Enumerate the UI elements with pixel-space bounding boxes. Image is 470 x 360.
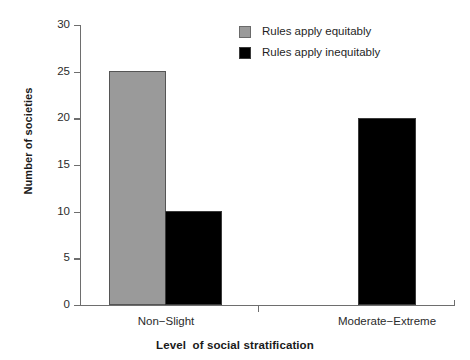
y-axis-tick-label-30: 30 [44,19,70,31]
y-axis-tick-5 [74,258,80,259]
y-axis-tick-label-25: 25 [44,66,70,78]
x-axis-tick-right-end [454,300,455,306]
legend-item-equitable: Rules apply equitably [239,21,380,42]
bar-non-slight-inequitable [165,211,222,305]
y-axis-tick-label-15: 15 [44,159,70,171]
legend-label-inequitable: Rules apply inequitably [262,47,380,59]
x-axis-line [80,305,455,306]
bar-moderate-extreme-inequitable [358,118,416,305]
y-axis-tick-10 [74,212,80,213]
y-axis-tick-15 [74,165,80,166]
x-axis-tick-center [258,306,259,312]
x-axis-title: Level of social stratification [0,339,470,351]
y-axis-tick-25 [74,72,80,73]
legend-label-equitable: Rules apply equitably [262,26,371,38]
y-axis-tick-label-0: 0 [44,299,70,311]
legend-swatch-inequitable-icon [239,47,251,59]
y-axis-tick-20 [74,118,80,119]
y-axis-tick-30 [74,25,80,26]
legend-swatch-equitable-icon [239,26,251,38]
y-axis-tick-label-5: 5 [44,252,70,264]
bar-non-slight-equitable [109,71,166,305]
legend-item-inequitable: Rules apply inequitably [239,42,380,63]
legend: Rules apply equitably Rules apply inequi… [239,21,380,63]
y-axis-title: Number of societies [22,51,34,231]
x-axis-tick-label-moderate-extreme: Moderate−Extreme [307,315,467,327]
y-axis-tick-label-10: 10 [44,206,70,218]
y-axis-line [80,25,81,306]
bar-chart: Number of societies 30 25 20 15 10 5 0 N… [0,0,470,360]
x-axis-tick-label-non-slight: Non−Slight [86,315,246,327]
y-axis-tick-label-20: 20 [44,112,70,124]
